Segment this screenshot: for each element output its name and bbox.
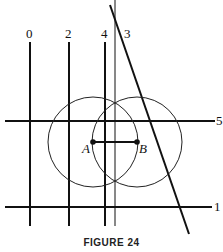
diagonal-line: [110, 5, 189, 234]
figure-caption: FIGURE 24: [0, 237, 223, 248]
label-line-0: 0: [26, 26, 33, 41]
label-line-2: 2: [65, 26, 72, 41]
label-line-3: 3: [124, 26, 131, 41]
figure-24-diagram: 0 2 4 3 5 1 A B: [0, 0, 223, 252]
label-line-5: 5: [216, 113, 223, 128]
point-a: [90, 139, 96, 145]
label-line-1: 1: [214, 199, 221, 214]
label-point-a: A: [81, 141, 90, 156]
label-point-b: B: [139, 141, 147, 156]
label-line-4: 4: [101, 26, 108, 41]
